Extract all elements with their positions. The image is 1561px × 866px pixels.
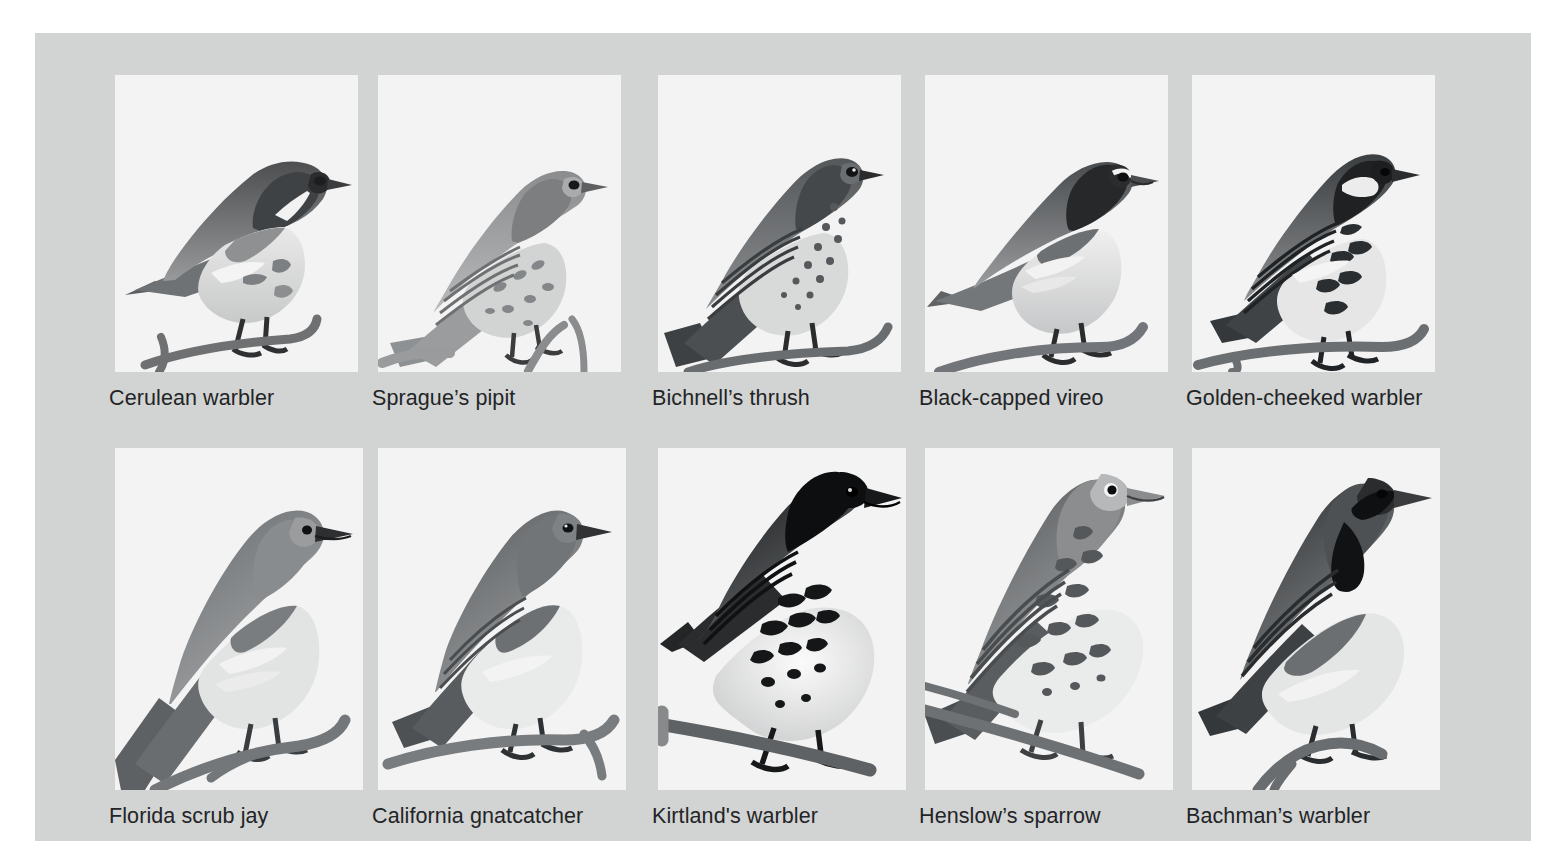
species-label: Florida scrub jay [109,804,268,829]
species-label: Black-capped vireo [919,386,1104,411]
species-illustration-bichnells-thrush [658,75,901,372]
species-label: Cerulean warbler [109,386,274,411]
species-label: Henslow’s sparrow [919,804,1101,829]
species-label: Bichnell’s thrush [652,386,810,411]
species-label: Golden-cheeked warbler [1186,386,1422,411]
species-illustration-california-gnatcatcher [378,448,626,790]
species-illustration-black-capped-vireo [925,75,1168,372]
species-illustration-florida-scrub-jay [115,448,363,790]
species-illustration-bachmans-warbler [1192,448,1440,790]
species-illustration-kirtlands-warbler [658,448,906,790]
species-label: Sprague’s pipit [372,386,515,411]
species-illustration-golden-cheeked-warbler [1192,75,1435,372]
species-label: California gnatcatcher [372,804,583,829]
species-illustration-spragues-pipit [378,75,621,372]
species-label: Bachman’s warbler [1186,804,1370,829]
species-illustration-henslows-sparrow [925,448,1173,790]
species-illustration-cerulean-warbler [115,75,358,372]
species-label: Kirtland's warbler [652,804,818,829]
figure-plate: Cerulean warbler [35,33,1531,841]
